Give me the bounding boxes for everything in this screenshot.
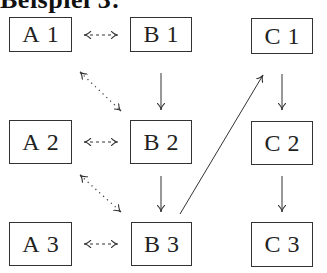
node-number: 3 <box>47 231 59 257</box>
node-letter: A <box>22 129 39 155</box>
node-number: 2 <box>167 129 179 155</box>
node-letter: B <box>144 231 160 257</box>
node-letter: B <box>143 129 159 155</box>
node-a1: A1 <box>9 17 72 52</box>
node-c3: C3 <box>251 222 313 267</box>
node-letter: C <box>264 130 280 156</box>
node-letter: C <box>264 23 280 49</box>
node-c1: C1 <box>251 18 313 54</box>
node-b2: B2 <box>130 120 192 164</box>
node-letter: A <box>22 231 39 257</box>
node-number: 3 <box>288 231 300 257</box>
node-a2: A2 <box>9 120 72 164</box>
node-b1: B1 <box>130 17 192 52</box>
node-number: 1 <box>167 21 179 47</box>
node-b3: B3 <box>131 222 192 266</box>
node-letter: A <box>22 21 39 47</box>
edge-a1-b2 <box>80 72 121 111</box>
node-number: 1 <box>288 23 300 49</box>
node-number: 2 <box>47 129 59 155</box>
node-number: 2 <box>288 130 300 156</box>
node-letter: B <box>143 21 159 47</box>
node-number: 1 <box>47 21 59 47</box>
node-letter: C <box>264 231 280 257</box>
node-a3: A3 <box>9 222 72 266</box>
node-number: 3 <box>167 231 179 257</box>
node-c2: C2 <box>251 121 313 165</box>
edge-a2-b3 <box>80 175 121 212</box>
